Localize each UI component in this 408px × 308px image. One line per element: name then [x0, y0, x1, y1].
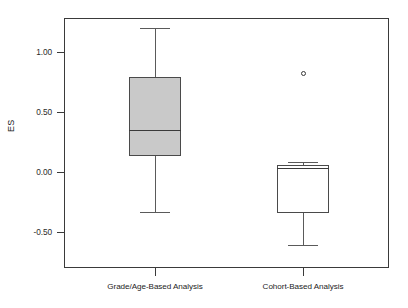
- x-axis-category-label: Cohort-Based Analysis: [263, 282, 344, 291]
- y-axis-tick-label: 0.50: [36, 107, 52, 117]
- median-line: [277, 168, 329, 169]
- whisker-cap-lower: [288, 245, 318, 246]
- plot-area: [64, 18, 389, 268]
- whisker-upper: [155, 28, 156, 77]
- box-1: [129, 77, 181, 156]
- x-axis-tick: [303, 268, 304, 276]
- y-axis-title: ES: [6, 120, 16, 132]
- whisker-lower: [155, 156, 156, 211]
- whisker-cap-upper: [140, 28, 170, 29]
- whisker-lower: [303, 213, 304, 245]
- boxplot-figure: ES 1.000.500.00-0.50 Grade/Age-Based Ana…: [0, 0, 408, 308]
- y-axis-tick-label: 0.00: [36, 167, 52, 177]
- whisker-cap-upper: [288, 162, 318, 163]
- x-axis-category-label: Grade/Age-Based Analysis: [107, 282, 203, 291]
- median-line: [129, 130, 181, 131]
- outlier-point: [301, 71, 306, 76]
- y-axis-tick-label: 1.00: [36, 47, 52, 57]
- x-axis-tick: [155, 268, 156, 276]
- y-axis-tick-label: -0.50: [34, 227, 52, 237]
- whisker-cap-lower: [140, 212, 170, 213]
- box-2: [277, 165, 329, 213]
